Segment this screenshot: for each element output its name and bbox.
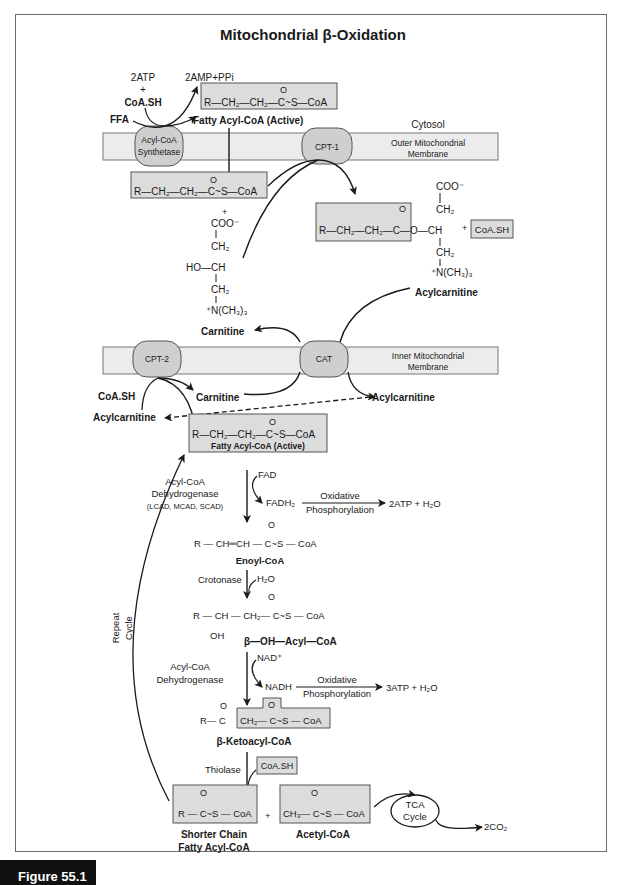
amp-ppi-label: 2AMP+PPi [185,72,234,83]
page-title: Mitochondrial β-Oxidation [220,26,406,43]
molecule-label: Fatty Acyl-CoA (Active) [193,115,303,126]
enzyme-label: CAT [316,354,332,364]
enzyme-label: Dehydrogenase [151,488,218,499]
molecule-label: Acylcarnitine [415,287,478,298]
repeat-cycle-label: Cycle [123,616,134,640]
inner-membrane-label: Membrane [408,362,449,372]
atp-yield-1: 2ATP + H₂O [389,498,441,509]
coash-label: CoA.SH [261,761,294,771]
ffa-label: FFA [110,114,129,125]
formula: R—CH₂—CH₂—C~S—CoA [134,186,257,197]
acyl-coa-synthetase [135,126,183,166]
formula: R—CH₂—CH₂—C~S—CoA [192,429,315,440]
enzyme-label: Dehydrogenase [156,674,223,685]
enzyme-label: CPT-2 [145,354,169,364]
molecule-label: β-Ketoacyl-CoA [217,736,292,747]
coash-label: CoA.SH [475,224,509,235]
molecule-label: Carnitine [201,326,245,337]
h2o-label: H₂O [257,573,275,584]
formula: ⁺N(CH₃)₃ [431,267,472,278]
tca-label: Cycle [403,811,427,822]
molecule-label: Acetyl-CoA [296,829,350,840]
molecule-label: Acylcarnitine [93,412,156,423]
carbonyl-o: O [220,701,227,711]
enzyme-label: Thiolase [205,764,241,775]
formula: COO⁻ [436,181,464,192]
plus-sign: + [265,810,271,821]
outer-membrane-label-2: Membrane [408,149,449,159]
molecule-label: Carnitine [196,392,240,403]
molecule-label: Acylcarnitine [372,392,435,403]
phosphorylation-label: Phosphorylation [306,504,374,515]
nadh-label: NADH [265,681,292,692]
formula: CH₂ [436,247,454,258]
enzyme-label: Synthetase [138,147,181,157]
molecule-label: Shorter Chain [181,829,247,840]
formula: CH₂ [211,284,229,295]
formula: R— C [200,715,226,726]
enzyme-label: (LCAD, MCAD, SCAD) [147,502,224,511]
enzyme-label: CPT-1 [315,142,339,152]
carbonyl-o: O [200,788,207,798]
atp-label: 2ATP [131,72,156,83]
carbonyl-o: O [269,417,276,427]
oxidative-label: Oxidative [317,674,357,685]
plus-sign: + [462,223,467,233]
formula: OH [210,630,224,641]
formula: CH₂ [436,204,454,215]
oxidative-label: Oxidative [320,490,360,501]
formula: CH₃— C~S — CoA [283,808,365,819]
formula: R—CH₂—CH₂—C~S—CoA [204,97,327,108]
molecule-label: Enoyl-CoA [236,555,285,566]
carbonyl-o: O [280,85,287,95]
formula: R—CH₂—CH₂—C—O—CH [319,225,442,236]
carbonyl-o: O [268,520,275,530]
repeat-cycle-label: Repeat [110,612,121,643]
plus-sign: + [222,207,227,217]
molecule-label: Fatty Acyl-CoA [178,842,249,853]
phosphorylation-label: Phosphorylation [303,688,371,699]
formula: COO⁻ [211,218,239,229]
beta-oxidation-diagram: Mitochondrial β-Oxidation Outer Mitochon… [0,0,626,885]
figure-label: Figure 55.1 [0,860,96,885]
fad-label: FAD [258,469,277,480]
inner-membrane-label: Inner Mitochondrial [392,351,464,361]
cytosol-label: Cytosol [411,119,444,130]
formula: ⁺N(CH₃)₃ [206,305,247,316]
coash-label: CoA.SH [98,391,135,402]
formula: R — CH═CH — C~S — CoA [194,538,317,549]
carbonyl-o: O [399,204,406,214]
enzyme-label: Acyl-CoA [170,661,210,672]
carbonyl-o: O [268,592,275,602]
fadh2-label: FADH₂ [266,497,295,508]
atp-yield-2: 3ATP + H₂O [386,682,438,693]
formula: HO—CH [186,262,225,273]
molecule-label: β—OH—Acyl—CoA [244,636,337,647]
coash-label: CoA.SH [124,97,161,108]
formula: CH₂ [211,241,229,252]
carbonyl-o: O [311,788,318,798]
formula: CH₂— C~S — CoA [240,715,322,726]
tca-label: TCA [406,799,426,810]
formula: R — C~S — CoA [178,808,252,819]
formula: R — CH — CH₂— C~S — CoA [193,610,325,621]
carbonyl-o: O [210,175,217,185]
carbonyl-o: O [268,700,275,710]
outer-membrane-label-1: Outer Mitochondrial [391,138,465,148]
plus-sign: + [140,84,146,95]
enzyme-label: Crotonase [198,574,242,585]
enzyme-label: Acyl-CoA [141,135,177,145]
molecule-label: Fatty Acyl-CoA (Active) [211,441,305,451]
nad-label: NAD⁺ [257,652,282,663]
co2-label: 2CO₂ [484,821,508,832]
